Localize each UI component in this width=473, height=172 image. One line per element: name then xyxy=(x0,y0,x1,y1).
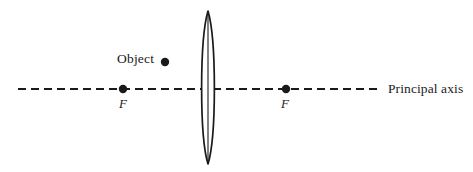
principal-axis-label: Principal axis xyxy=(388,82,463,96)
focal-point-right-label: F xyxy=(281,97,289,110)
optics-lens-diagram: Object Principal axis F F xyxy=(0,0,473,172)
focal-point-right-marker xyxy=(282,85,290,93)
focal-point-left-label: F xyxy=(119,97,127,110)
object-point-marker xyxy=(161,58,169,66)
object-label: Object xyxy=(117,52,154,66)
focal-point-left-marker xyxy=(119,85,127,93)
